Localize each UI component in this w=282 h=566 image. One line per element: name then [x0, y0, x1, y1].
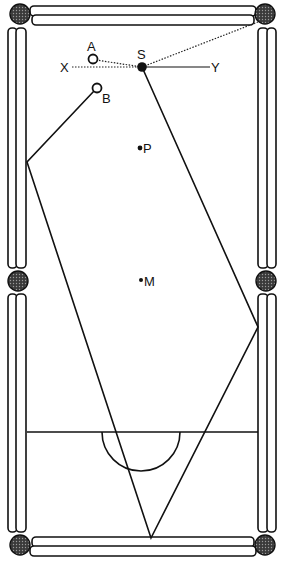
right-rail-upper [258, 28, 276, 268]
label-y: Y [211, 60, 220, 75]
spot-m [139, 278, 143, 282]
pocket-bottom-left [10, 535, 30, 555]
pocket-middle-right [256, 271, 276, 291]
ball-b-path [27, 67, 258, 538]
pocket-top-right [255, 4, 275, 24]
ball-a [89, 55, 98, 64]
line-s-to-top-right-pocket [142, 22, 258, 67]
label-x: X [60, 60, 69, 75]
spot-p [138, 146, 143, 151]
label-b: B [102, 91, 111, 106]
left-rail-upper [8, 28, 26, 268]
pocket-middle-left [8, 271, 28, 291]
top-rail [30, 6, 256, 25]
label-s: S [137, 47, 146, 62]
label-a: A [87, 39, 96, 54]
pocket-top-left [10, 4, 30, 24]
ball-b [93, 84, 102, 93]
line-a-to-s [96, 60, 142, 67]
pocket-bottom-right [255, 535, 275, 555]
ball-s [137, 62, 147, 72]
label-m: M [144, 274, 155, 289]
label-p: P [143, 141, 152, 156]
right-rail-lower [258, 294, 276, 532]
bottom-rail [30, 537, 256, 556]
left-rail-lower [8, 294, 26, 532]
d-semicircle [102, 432, 180, 471]
diagram-canvas: A S X Y B P M [0, 0, 282, 566]
